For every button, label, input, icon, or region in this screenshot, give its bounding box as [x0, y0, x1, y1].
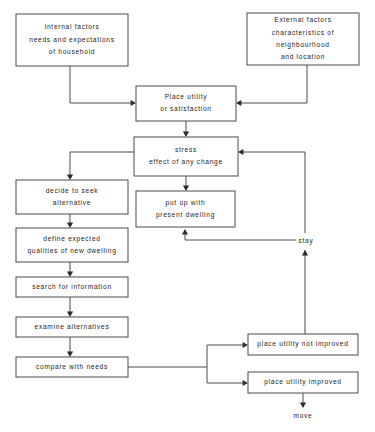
node-search-for-information[interactable]: search for information [16, 277, 128, 297]
arrow-into-search-top [67, 272, 73, 277]
node-label-place-utility-line-1: or satisfaction [160, 105, 211, 112]
node-label-define-expected-line-1: qualities of new dwelling [27, 247, 116, 255]
node-external-factors[interactable]: External factorscharacteristics ofneighb… [247, 13, 359, 65]
node-label-external-factors-line-0: External factors [274, 16, 331, 23]
node-decide-to-seek[interactable]: decide to seekalternative [16, 180, 128, 214]
node-label-internal-factors-line-1: needs and expectations [29, 36, 115, 44]
edge-stay-branch-to-put-up-with [185, 232, 296, 240]
edge-stress-to-decide [70, 152, 134, 175]
node-box-stress [134, 137, 238, 176]
arrow-into-place-utility-right [236, 100, 241, 106]
node-label-search-for-information-line-0: search for information [32, 283, 112, 290]
node-examine-alternatives[interactable]: examine alternatives [16, 317, 128, 337]
arrow-into-stress-top [183, 132, 189, 137]
node-label-put-up-with-line-0: put up with [166, 199, 206, 207]
nodes-layer: Internal factorsneeds and expectationsof… [16, 13, 359, 393]
node-internal-factors[interactable]: Internal factorsneeds and expectationsof… [16, 14, 128, 66]
edge-split-to-improved [207, 367, 243, 383]
node-label-stress-line-1: effect of any change [149, 158, 223, 166]
node-label-internal-factors-line-2: of household [49, 48, 95, 55]
node-place-utility[interactable]: Place utilityor satisfaction [136, 86, 236, 121]
node-stress[interactable]: stresseffect of any change [134, 137, 238, 176]
arrow-into-move-down [300, 403, 306, 408]
arrow-into-stay-up [302, 250, 308, 255]
flowchart-page: Internal factorsneeds and expectationsof… [0, 0, 375, 432]
node-box-place-utility [136, 86, 236, 121]
arrow-into-not-improved-left [243, 342, 248, 348]
node-define-expected[interactable]: define expectedqualities of new dwelling [16, 228, 128, 262]
arrow-into-compare-top [67, 352, 73, 357]
arrow-into-put-up-with-bottom [182, 229, 188, 234]
edge-external-to-place-utility [241, 65, 307, 103]
node-label-stress-line-0: stress [175, 146, 197, 153]
arrow-into-improved-left [243, 380, 248, 386]
arrow-into-decide-top [67, 175, 73, 180]
arrow-into-examine-top [67, 312, 73, 317]
node-label-compare-with-needs-line-0: compare with needs [36, 363, 108, 371]
node-box-define-expected [16, 228, 128, 262]
arrow-into-place-utility-left [131, 100, 136, 106]
edge-split-to-not-improved [207, 345, 243, 367]
node-label-put-up-with-line-1: present dwelling [156, 211, 215, 219]
stay-label: stay [299, 237, 314, 245]
node-place-utility-not-improved[interactable]: place utility not improved [248, 334, 358, 355]
edge-internal-to-place-utility [70, 66, 131, 103]
node-label-decide-to-seek-line-0: decide to seek [46, 187, 99, 194]
edge-stay-to-stress [243, 152, 305, 233]
node-label-define-expected-line-0: define expected [43, 235, 100, 243]
node-label-internal-factors-line-0: Internal factors [44, 23, 99, 30]
move-label: move [293, 412, 312, 419]
node-box-put-up-with [136, 191, 235, 227]
node-label-decide-to-seek-line-1: alternative [53, 199, 91, 206]
node-box-decide-to-seek [16, 180, 128, 214]
node-put-up-with[interactable]: put up withpresent dwelling [136, 191, 235, 227]
node-place-utility-improved[interactable]: place utility improved [248, 372, 358, 393]
node-label-place-utility-line-0: Place utility [165, 93, 208, 101]
node-label-place-utility-not-improved-line-0: place utility not improved [257, 340, 348, 348]
arrow-into-put-up-with-top [183, 186, 189, 191]
arrow-into-define-top [67, 223, 73, 228]
node-label-examine-alternatives-line-0: examine alternatives [35, 323, 110, 330]
node-label-external-factors-line-2: neighbourhood [276, 41, 329, 49]
node-label-place-utility-improved-line-0: place utility improved [264, 378, 341, 386]
arrow-into-stress-right [238, 149, 243, 155]
node-label-external-factors-line-3: and location [281, 53, 325, 60]
node-label-external-factors-line-1: characteristics of [272, 29, 334, 36]
flowchart-canvas: Internal factorsneeds and expectationsof… [0, 0, 375, 432]
node-compare-with-needs[interactable]: compare with needs [16, 357, 128, 377]
